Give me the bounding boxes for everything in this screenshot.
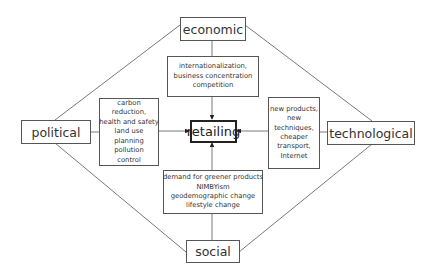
social-details-box: demand for greener products NIMBYism geo… xyxy=(163,170,263,214)
retailing-box: retailing xyxy=(190,120,237,143)
political-box: political xyxy=(21,120,91,144)
economic-details-box: internationalization, business concentra… xyxy=(167,56,259,97)
technological-detail: Internet xyxy=(281,152,308,161)
retailing-label: retailing xyxy=(187,124,240,139)
political-detail: pollution xyxy=(114,146,144,155)
political-detail: reduction, xyxy=(112,108,146,117)
technological-label: technological xyxy=(329,126,413,141)
political-detail: health and safety xyxy=(99,118,159,127)
political-detail: carbon xyxy=(117,99,140,108)
social-detail: lifestyle change xyxy=(186,201,240,210)
technological-detail: techniques, xyxy=(274,124,314,133)
political-detail: planning xyxy=(114,137,144,146)
economic-label: economic xyxy=(183,22,243,37)
economic-detail: internationalization, xyxy=(179,62,247,71)
social-detail: NIMBYism xyxy=(196,183,229,192)
technological-detail: cheaper xyxy=(280,133,308,142)
social-detail: geodemographic change xyxy=(171,192,256,201)
technological-detail: new xyxy=(287,114,301,123)
political-detail: land use xyxy=(115,127,144,136)
political-detail: control xyxy=(117,156,141,165)
political-details-box: carbon reduction, health and safety land… xyxy=(99,98,159,166)
technological-detail: transport, xyxy=(277,142,311,151)
economic-detail: business concentration xyxy=(174,72,253,81)
social-detail: demand for greener products xyxy=(163,173,263,182)
economic-box: economic xyxy=(180,17,246,41)
technological-details-box: new products, new techniques, cheaper tr… xyxy=(268,97,320,169)
social-box: social xyxy=(186,240,240,263)
economic-detail: competition xyxy=(193,81,234,90)
technological-detail: new products, xyxy=(270,105,318,114)
political-label: political xyxy=(32,125,81,140)
social-label: social xyxy=(195,244,231,259)
technological-box: technological xyxy=(327,121,415,145)
